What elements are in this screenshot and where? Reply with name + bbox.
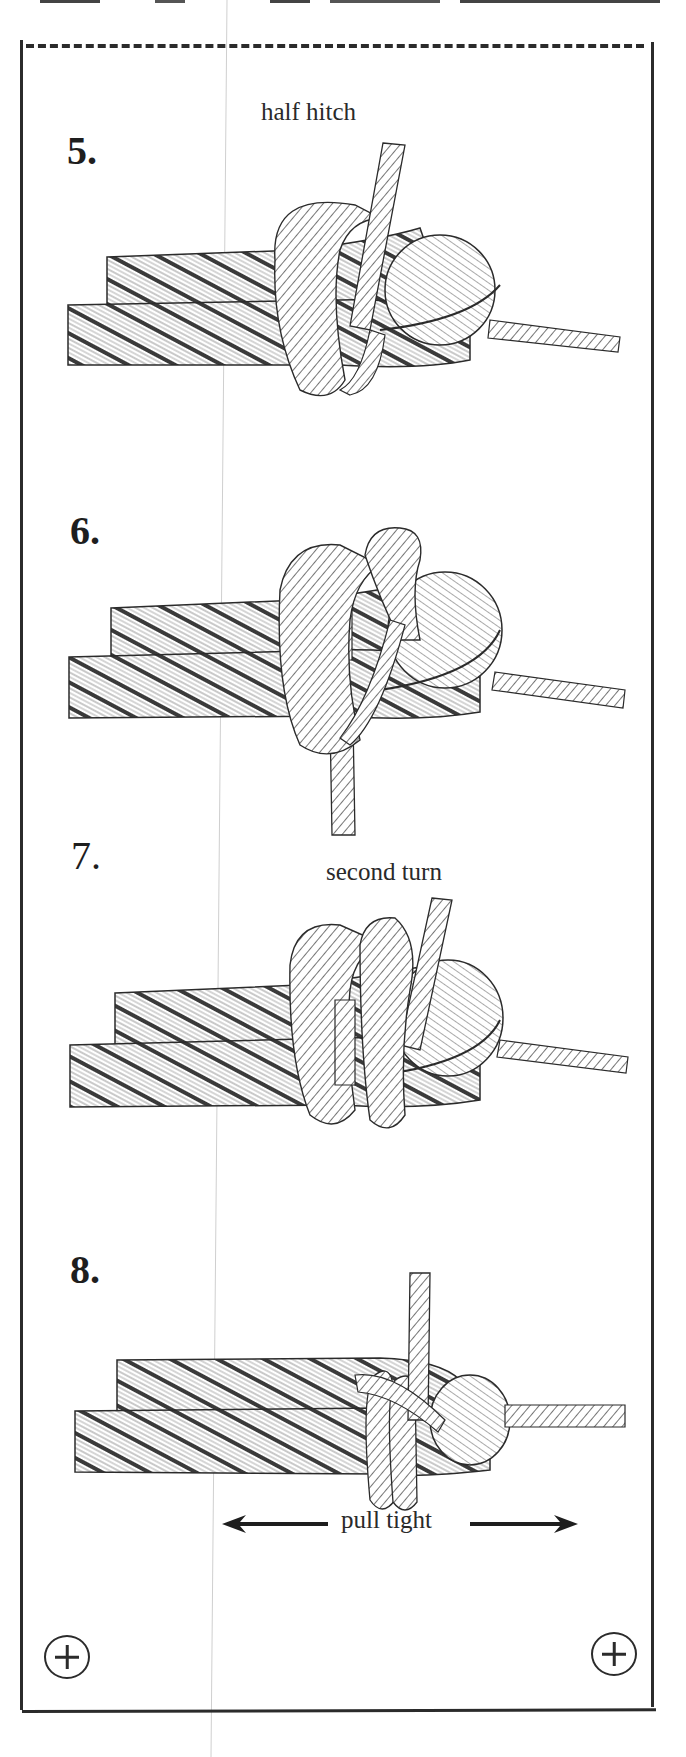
arrow-right-icon bbox=[468, 1514, 578, 1534]
caption-pull-tight: pull tight bbox=[341, 1506, 432, 1534]
figure-step-6 bbox=[69, 528, 625, 835]
registration-mark-right-icon bbox=[591, 1632, 637, 1676]
instruction-card: 5. half hitch 6. 7. second turn 8. bbox=[0, 0, 686, 1757]
figure-step-8 bbox=[75, 1273, 625, 1510]
registration-mark-left-icon bbox=[44, 1635, 90, 1679]
figure-step-5 bbox=[68, 143, 620, 396]
figure-step-7 bbox=[70, 898, 628, 1128]
pull-tight-row: pull tight bbox=[222, 1508, 582, 1538]
arrow-left-icon bbox=[222, 1514, 330, 1534]
knot-illustrations bbox=[0, 0, 686, 1757]
